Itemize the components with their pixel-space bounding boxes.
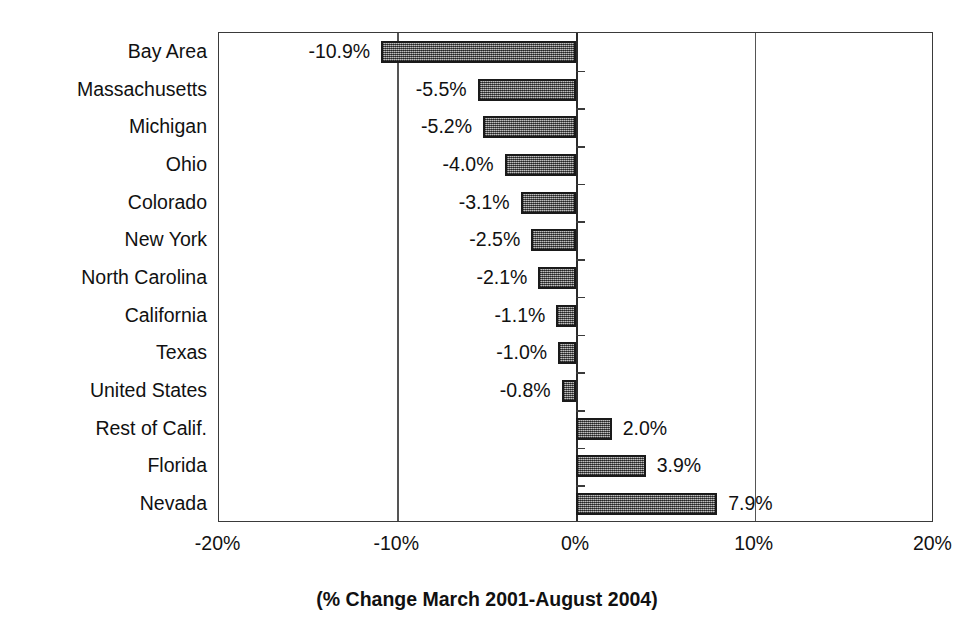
bar — [576, 418, 612, 440]
y-axis-label: New York — [0, 228, 207, 250]
category-tick — [576, 372, 585, 374]
category-tick — [576, 485, 585, 487]
y-axis-label: Nevada — [0, 492, 207, 514]
y-axis-label: California — [0, 304, 207, 326]
y-axis-label: Florida — [0, 454, 207, 476]
y-axis-label: Massachusetts — [0, 78, 207, 100]
y-axis-label: North Carolina — [0, 266, 207, 288]
x-axis-tick-label: -20% — [195, 532, 241, 554]
y-axis-label: Bay Area — [0, 40, 207, 62]
bar — [558, 342, 576, 364]
category-tick — [576, 184, 585, 186]
y-axis-label: Colorado — [0, 191, 207, 213]
category-tick — [576, 108, 585, 110]
bar — [576, 493, 717, 515]
bar-value-label: -2.5% — [370, 228, 520, 250]
bar — [531, 229, 576, 251]
bar — [505, 154, 576, 176]
category-tick — [576, 448, 585, 450]
category-tick — [576, 259, 585, 261]
category-tick — [576, 297, 585, 299]
y-axis-label: Texas — [0, 341, 207, 363]
bar — [562, 380, 576, 402]
x-axis-tick-label: -10% — [374, 532, 420, 554]
chart-title-clipped — [0, 0, 974, 2]
bar-value-label: -2.1% — [377, 266, 527, 288]
bar — [576, 455, 646, 477]
bar-value-label: -0.8% — [401, 379, 551, 401]
bar-value-label: -4.0% — [344, 153, 494, 175]
y-axis-label: United States — [0, 379, 207, 401]
category-tick — [576, 146, 585, 148]
x-axis-tick-label: 10% — [734, 532, 773, 554]
category-tick — [576, 410, 585, 412]
category-tick — [576, 71, 585, 73]
bar-value-label: -1.0% — [397, 341, 547, 363]
x-axis-title: (% Change March 2001-August 2004) — [0, 588, 974, 611]
y-axis-label: Ohio — [0, 153, 207, 175]
bar-value-label: 2.0% — [623, 417, 773, 439]
x-axis-tick-label: 20% — [913, 532, 952, 554]
bar — [538, 267, 576, 289]
y-axis-label: Rest of Calif. — [0, 417, 207, 439]
bar-value-label: -5.5% — [317, 78, 467, 100]
plot-area — [218, 32, 933, 522]
bar — [483, 116, 576, 138]
bar-chart: Bay AreaMassachusettsMichiganOhioColorad… — [0, 0, 974, 639]
bar-value-label: -3.1% — [360, 191, 510, 213]
y-axis-category-labels: Bay AreaMassachusettsMichiganOhioColorad… — [0, 32, 207, 522]
gridline — [755, 33, 756, 521]
bar — [556, 305, 576, 327]
bar-value-label: 7.9% — [728, 492, 878, 514]
bar-value-label: 3.9% — [657, 454, 807, 476]
bar — [381, 41, 576, 63]
bar-value-label: -10.9% — [220, 40, 370, 62]
category-tick — [576, 335, 585, 337]
bar-value-label: -5.2% — [322, 115, 472, 137]
y-axis-label: Michigan — [0, 115, 207, 137]
bar — [478, 79, 576, 101]
x-axis-tick-label: 0% — [561, 532, 589, 554]
category-tick — [576, 221, 585, 223]
bar — [521, 192, 576, 214]
bar-value-label: -1.1% — [395, 304, 545, 326]
